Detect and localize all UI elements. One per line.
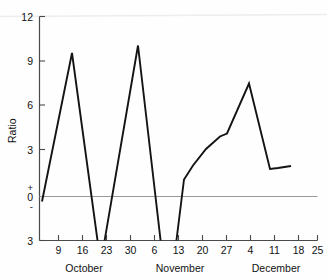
x-tick-label-9: 11 — [269, 244, 280, 256]
data-line-segment-2 — [104, 46, 161, 245]
x-tick-label-2: 23 — [101, 244, 113, 256]
x-tick-label-1: 16 — [77, 244, 89, 256]
x-tick-label-5: 13 — [173, 244, 185, 256]
y-tick-marks — [40, 17, 46, 241]
y-tick-label-12: 12 — [21, 11, 33, 23]
x-tick-label-7: 27 — [221, 244, 233, 256]
scan-artifact-line — [0, 15, 327, 17]
data-line-segment-1 — [42, 53, 98, 244]
y-tick-label-minus3: 3 — [27, 235, 33, 247]
month-label-november: November — [156, 262, 205, 274]
x-tick-label-8: 4 — [248, 244, 254, 256]
x-tick-label-11: 25 — [312, 244, 324, 256]
y-axis-minus-sign: - — [30, 201, 33, 212]
line-chart-svg: 12 9 6 3 + 0 - 3 Ratio 9 16 23 30 6 — [0, 0, 327, 280]
y-tick-label-9: 9 — [27, 55, 33, 67]
month-label-october: October — [65, 262, 103, 274]
y-tick-label-6: 6 — [27, 99, 33, 111]
y-tick-label-3: 3 — [27, 144, 33, 156]
data-series-group — [42, 46, 291, 245]
x-tick-label-4: 6 — [152, 244, 158, 256]
x-tick-label-6: 20 — [197, 244, 209, 256]
chart-figure: 12 9 6 3 + 0 - 3 Ratio 9 16 23 30 6 — [0, 0, 327, 280]
x-tick-label-0: 9 — [56, 244, 62, 256]
x-tick-label-10: 18 — [293, 244, 305, 256]
data-line-segment-3 — [176, 84, 291, 245]
month-label-december: December — [252, 262, 301, 274]
y-axis-title: Ratio — [6, 118, 18, 143]
x-tick-label-3: 30 — [125, 244, 137, 256]
